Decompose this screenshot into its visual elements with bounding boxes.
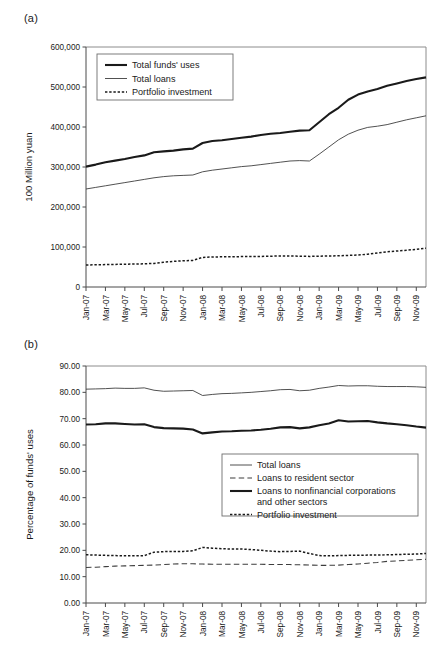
chart-legend: Total loansLoans to resident sectorLoans… xyxy=(222,454,418,520)
legend-label-1: Loans to resident sector xyxy=(257,473,354,483)
x-tick-label: Jan-08 xyxy=(199,611,208,636)
y-tick-label: 80.00 xyxy=(60,388,81,397)
x-tick-label: Sep-08 xyxy=(276,295,285,322)
x-tick-label: May-08 xyxy=(238,611,247,639)
chart-panel-b: (b) 0.0010.0020.0030.0040.0050.0060.0070… xyxy=(0,330,445,668)
x-tick-label: Jul-08 xyxy=(257,611,266,634)
series-line-3 xyxy=(86,547,426,555)
x-tick-label: May-09 xyxy=(354,611,363,639)
x-tick-label: Jul-07 xyxy=(140,295,149,318)
y-tick-label: 300,000 xyxy=(50,163,80,172)
x-tick-label: May-07 xyxy=(121,295,130,323)
y-tick-label: 0.00 xyxy=(64,599,80,608)
series-line-1 xyxy=(86,116,426,189)
y-tick-label: 40.00 xyxy=(60,494,81,503)
x-tick-label: Mar-07 xyxy=(102,611,111,637)
x-tick-label: Sep-09 xyxy=(393,611,402,638)
x-tick-label: Nov-07 xyxy=(179,295,188,322)
y-tick-label: 10.00 xyxy=(60,573,81,582)
x-tick-label: Jan-09 xyxy=(315,611,324,636)
x-tick-label: Sep-07 xyxy=(160,295,169,322)
x-tick-label: Mar-09 xyxy=(335,611,344,637)
series-line-2 xyxy=(86,248,426,265)
legend-label-0: Total funds' uses xyxy=(132,60,200,70)
x-tick-label: Mar-07 xyxy=(102,295,111,321)
x-tick-label: Mar-08 xyxy=(218,611,227,637)
y-axis-title: Percentage of funds' uses xyxy=(24,429,35,540)
x-tick-label: Jan-07 xyxy=(82,611,91,636)
y-tick-label: 200,000 xyxy=(50,203,80,212)
x-tick-label: Jul-09 xyxy=(374,611,383,634)
y-tick-label: 500,000 xyxy=(50,83,80,92)
y-tick-label: 30.00 xyxy=(60,520,81,529)
series-line-2 xyxy=(86,420,426,433)
x-tick-label: Sep-07 xyxy=(160,611,169,638)
x-tick-label: Sep-08 xyxy=(276,611,285,638)
x-tick-label: May-09 xyxy=(354,295,363,323)
legend-label-2: Portfolio investment xyxy=(132,87,212,97)
y-tick-label: 600,000 xyxy=(50,43,80,52)
legend-label-3: Portfolio investment xyxy=(257,510,337,520)
legend-label-0: Total loans xyxy=(257,460,301,470)
y-tick-label: 400,000 xyxy=(50,123,80,132)
x-tick-label: Mar-08 xyxy=(218,295,227,321)
chart-panel-a: (a) 0100,000200,000300,000400,000500,000… xyxy=(0,0,445,334)
y-tick-label: 90.00 xyxy=(60,362,81,371)
y-tick-label: 70.00 xyxy=(60,415,81,424)
x-tick-label: Sep-09 xyxy=(393,295,402,322)
x-tick-label: Jan-08 xyxy=(199,295,208,320)
x-tick-label: Nov-08 xyxy=(296,295,305,322)
y-tick-label: 20.00 xyxy=(60,546,81,555)
y-axis-title: 100 Million yuan xyxy=(23,132,34,201)
chart-a-svg: 0100,000200,000300,000400,000500,000600,… xyxy=(0,0,445,334)
x-tick-label: Mar-09 xyxy=(335,295,344,321)
chart-legend: Total funds' usesTotal loansPortfolio in… xyxy=(97,54,233,100)
x-tick-label: Nov-08 xyxy=(296,611,305,638)
x-tick-label: Jul-09 xyxy=(374,295,383,318)
y-tick-label: 50.00 xyxy=(60,467,81,476)
series-line-0 xyxy=(86,385,426,395)
panel-a-label: (a) xyxy=(24,12,38,24)
panel-b-label: (b) xyxy=(24,338,38,350)
chart-b-svg: 0.0010.0020.0030.0040.0050.0060.0070.008… xyxy=(0,330,445,668)
x-tick-label: Nov-09 xyxy=(412,611,421,638)
legend-label-1: Total loans xyxy=(132,74,176,84)
y-tick-label: 100,000 xyxy=(50,243,80,252)
y-tick-label: 0 xyxy=(75,283,80,292)
x-tick-label: May-07 xyxy=(121,611,130,639)
x-tick-label: Nov-09 xyxy=(412,295,421,322)
series-line-1 xyxy=(86,559,426,567)
x-tick-label: Nov-07 xyxy=(179,611,188,638)
x-tick-label: May-08 xyxy=(238,295,247,323)
legend-label-2: Loans to nonfinancial corporations xyxy=(257,486,396,496)
x-tick-label: Jan-09 xyxy=(315,295,324,320)
y-tick-label: 60.00 xyxy=(60,441,81,450)
x-tick-label: Jul-08 xyxy=(257,295,266,318)
legend-label-2: and other sectors xyxy=(257,497,328,507)
x-tick-label: Jan-07 xyxy=(82,295,91,320)
x-tick-label: Jul-07 xyxy=(140,611,149,634)
